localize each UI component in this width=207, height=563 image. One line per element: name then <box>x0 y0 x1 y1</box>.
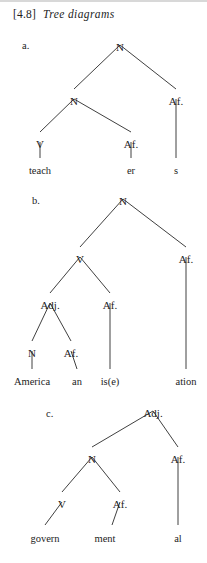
tree-node-v: V <box>36 139 44 150</box>
tree-node-v: V <box>58 499 66 510</box>
tree-node-n: N <box>88 454 96 465</box>
tree-branch <box>80 257 110 293</box>
tree-leaf-s: s <box>174 166 178 177</box>
figure-page: [4.8]Tree diagrams a.NNAf.VAf.teachersb.… <box>0 0 207 563</box>
tree-leaf-ment: ment <box>95 534 116 545</box>
tree-leaf-al: al <box>174 534 182 545</box>
tree-node-inner-af: Af. <box>64 348 78 359</box>
tree-leaf-an: an <box>72 377 82 388</box>
tree-branch <box>123 199 186 247</box>
tree-leaf-govern: govern <box>30 534 59 545</box>
tree-item-label: b. <box>32 195 40 206</box>
tree-leaf-ation: ation <box>176 377 197 388</box>
figure-title: Tree diagrams <box>43 8 115 20</box>
tree-item-label: a. <box>22 40 29 51</box>
tree-node-n: N <box>28 348 36 359</box>
figure-caption: [4.8]Tree diagrams <box>13 8 115 20</box>
tree-leaf-teach: teach <box>29 166 51 177</box>
figure-number: [4.8] <box>13 8 36 20</box>
tree-leaf-ise: is(e) <box>101 377 120 388</box>
tree-branch <box>92 457 120 492</box>
tree-node-right-af: Af. <box>179 254 193 265</box>
tree-node-right-af: Af. <box>169 96 183 107</box>
tree-node-adj: Adj. <box>40 300 59 311</box>
tree-branch <box>74 45 120 89</box>
tree-node-inner-n: N <box>70 96 78 107</box>
top-rule-divider <box>0 0 207 2</box>
tree-node-root-n: N <box>119 196 127 207</box>
tree-node-inner-af: Af. <box>124 139 138 150</box>
tree-branch <box>40 99 74 132</box>
tree-branch <box>80 199 123 247</box>
tree-node-v: V <box>76 254 84 265</box>
tree-branch <box>120 45 176 89</box>
tree-leaf-america: America <box>14 377 50 388</box>
tree-node-root-n: N <box>116 42 124 53</box>
tree-item-label: c. <box>46 408 53 419</box>
tree-branch <box>74 99 131 132</box>
tree-node-right-af: Af. <box>171 454 185 465</box>
tree-node-mid-af: Af. <box>103 300 117 311</box>
tree-node-inner-af: Af. <box>113 499 127 510</box>
tree-edges-layer <box>0 0 207 563</box>
tree-leaf-er: er <box>127 166 135 177</box>
tree-node-root-adj: Adj. <box>143 408 162 419</box>
